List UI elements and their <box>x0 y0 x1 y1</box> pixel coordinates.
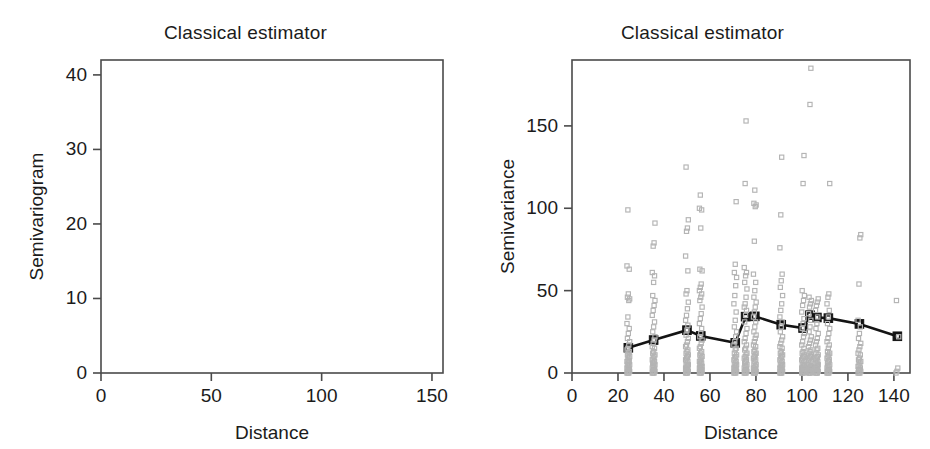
cloud-point <box>753 289 757 293</box>
x-tick-label: 120 <box>832 385 864 406</box>
cloud-point <box>751 272 755 276</box>
cloud-point <box>801 303 805 307</box>
cloud-point <box>732 325 736 329</box>
cloud-point <box>698 317 702 321</box>
cloud-column <box>825 181 832 375</box>
cloud-point <box>827 331 831 335</box>
cloud-point <box>650 313 654 317</box>
cloud-point <box>735 275 739 279</box>
cloud-point <box>809 66 813 70</box>
cloud-point <box>684 318 688 322</box>
cloud-point <box>800 289 804 293</box>
cloud-point <box>699 312 703 316</box>
mean-marker-center <box>685 329 688 332</box>
cloud-point <box>856 336 860 340</box>
cloud-point <box>801 298 805 302</box>
cloud-point <box>780 272 784 276</box>
cloud-point <box>734 200 738 204</box>
cloud-point <box>894 298 898 302</box>
cloud-column <box>732 200 739 376</box>
cloud-point <box>780 293 784 297</box>
cloud-point <box>686 218 690 222</box>
y-tick-label: 50 <box>537 280 558 301</box>
cloud-point <box>816 331 820 335</box>
cloud-point <box>698 193 702 197</box>
cloud-point <box>753 325 757 329</box>
cloud-point <box>800 310 804 314</box>
cloud-point <box>808 325 812 329</box>
cloud-point <box>652 280 656 284</box>
cloud-column <box>813 297 820 375</box>
plot-frame <box>101 60 443 373</box>
x-tick-label: 140 <box>878 385 910 406</box>
cloud-point <box>651 330 655 334</box>
y-tick-label: 0 <box>547 362 558 383</box>
cloud-point <box>732 270 736 274</box>
cloud-point <box>685 307 689 311</box>
x-tick-label: 60 <box>699 385 720 406</box>
cloud-point <box>802 293 806 297</box>
cloud-point <box>780 155 784 159</box>
cloud-point <box>652 325 656 329</box>
cloud-point <box>653 298 657 302</box>
cloud-point <box>732 302 736 306</box>
y-tick-label: 20 <box>66 213 87 234</box>
x-tick-label: 0 <box>567 385 578 406</box>
cloud-column <box>807 66 814 375</box>
x-tick-label: 50 <box>201 385 222 406</box>
cloud-point <box>754 300 758 304</box>
cloud-point <box>752 239 756 243</box>
cloud-point <box>778 330 782 334</box>
cloud-point <box>697 321 701 325</box>
cloud-point <box>801 181 805 185</box>
y-tick-label: 150 <box>526 115 558 136</box>
cloud-point <box>651 293 655 297</box>
figure-container: Classical estimator 050100150010203040Di… <box>0 0 930 449</box>
cloud-point <box>700 326 704 330</box>
cloud-column <box>650 221 657 375</box>
cloud-column <box>800 153 807 375</box>
y-tick-label: 0 <box>76 362 87 383</box>
left-plot-svg: 050100150010203040DistanceSemivariogram <box>0 0 465 449</box>
cloud-point <box>744 331 748 335</box>
cloud-point <box>744 119 748 123</box>
x-axis-title: Distance <box>235 422 309 443</box>
y-axis-title: Semivariogram <box>26 153 47 281</box>
cloud-point <box>627 326 631 330</box>
panel-classical-estimator-variogram-cloud: Classical estimator 02040608010012014005… <box>465 0 930 449</box>
cloud-point <box>626 315 630 319</box>
cloud-point <box>652 320 656 324</box>
cloud-point <box>778 285 782 289</box>
cloud-point <box>753 305 757 309</box>
cloud-point <box>745 287 749 291</box>
cloud-point <box>652 303 656 307</box>
cloud-point <box>753 188 757 192</box>
cloud-column <box>778 155 785 375</box>
cloud-point <box>754 280 758 284</box>
cloud-column <box>751 188 758 375</box>
right-plot-svg: 020406080100120140050100150DistanceSemiv… <box>465 0 930 449</box>
cloud-point <box>814 326 818 330</box>
cloud-point <box>827 308 831 312</box>
cloud-point <box>778 315 782 319</box>
cloud-point <box>653 221 657 225</box>
cloud-column <box>742 119 749 375</box>
x-tick-label: 100 <box>786 385 818 406</box>
cloud-point <box>779 213 783 217</box>
cloud-point <box>802 153 806 157</box>
cloud-point <box>699 226 703 230</box>
cloud-point <box>651 308 655 312</box>
cloud-column <box>856 233 863 376</box>
x-tick-label: 150 <box>416 385 448 406</box>
cloud-point <box>684 165 688 169</box>
cloud-point <box>745 326 749 330</box>
cloud-point <box>742 265 746 269</box>
cloud-point <box>744 295 748 299</box>
cloud-point <box>626 208 630 212</box>
y-tick-label: 10 <box>66 287 87 308</box>
cloud-point <box>857 282 861 286</box>
cloud-point <box>684 254 688 258</box>
panel-classical-estimator-semivariogram: Classical estimator 050100150010203040Di… <box>0 0 465 449</box>
cloud-point <box>700 305 704 309</box>
cloud-point <box>733 262 737 266</box>
